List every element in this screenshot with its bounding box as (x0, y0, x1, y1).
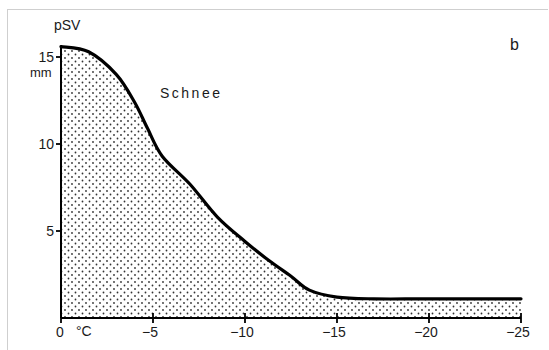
y-axis-label: pSV (54, 18, 80, 32)
x-tick-label: −10 (230, 325, 254, 339)
x-tick-label: −20 (414, 325, 438, 339)
y-tick-label: 15 (38, 50, 54, 64)
x-tick-label: −25 (506, 325, 530, 339)
y-tick-label: 10 (38, 137, 54, 151)
series-annotation: Schnee (160, 86, 222, 100)
x-tick-label: −5 (142, 325, 158, 339)
x-tick-label: 0 (56, 325, 64, 339)
x-tick-label: −15 (322, 325, 346, 339)
panel-label: b (510, 38, 519, 52)
y-axis-unit: mm (30, 66, 52, 80)
x-axis-unit: °C (76, 324, 92, 338)
y-tick-label: 5 (46, 224, 54, 238)
